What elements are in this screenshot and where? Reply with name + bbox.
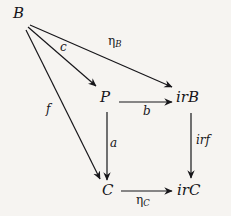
node-B: B bbox=[13, 6, 24, 21]
edge-label-irf: irf bbox=[196, 134, 210, 146]
edge-label-c: c bbox=[60, 41, 67, 53]
edge-label-f: f bbox=[46, 103, 50, 115]
diagram-canvas: B P irB C irC c ηB f b a irf ηC bbox=[0, 0, 231, 216]
node-irC: irC bbox=[177, 183, 200, 198]
edge-label-a-text: a bbox=[110, 136, 117, 150]
edge-label-a: a bbox=[110, 137, 117, 149]
arrow-eta-b bbox=[30, 25, 172, 87]
edge-label-eta-c-subscript: C bbox=[143, 198, 150, 208]
edge-label-eta-b: ηB bbox=[108, 35, 121, 49]
edge-label-eta-b-subscript: B bbox=[115, 39, 121, 49]
edge-label-eta-c: ηC bbox=[136, 194, 150, 208]
arrow-c bbox=[28, 27, 96, 86]
edge-label-b: b bbox=[143, 105, 151, 117]
node-P: P bbox=[100, 90, 110, 105]
edge-label-irf-text: irf bbox=[196, 133, 210, 147]
edge-label-f-text: f bbox=[46, 102, 50, 116]
node-C: C bbox=[102, 183, 113, 198]
edge-label-b-text: b bbox=[143, 104, 151, 118]
edge-label-c-text: c bbox=[60, 40, 67, 54]
node-irB: irB bbox=[176, 90, 199, 105]
